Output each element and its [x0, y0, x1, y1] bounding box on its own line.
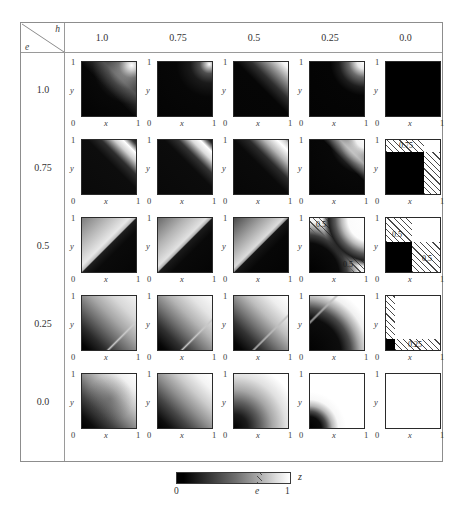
col-header-2: 0.5	[216, 23, 292, 53]
x-max-tick: 1	[440, 275, 444, 284]
plot-area	[385, 373, 441, 429]
panel-e0.0-h0.75: 1 y 0 x 1	[140, 365, 216, 443]
row-header-3: 0.25	[21, 318, 65, 329]
row-header-4: 0.0	[21, 396, 65, 407]
contour-line	[158, 296, 212, 350]
plot-area	[157, 373, 213, 429]
x-min-tick: 0	[299, 431, 303, 440]
colorbar-tick-min: 0	[174, 486, 179, 496]
black-region	[386, 152, 424, 194]
x-max-tick: 1	[440, 431, 444, 440]
y-max-tick: 1	[375, 136, 379, 145]
y-max-tick: 1	[223, 58, 227, 67]
plot-area	[81, 139, 137, 195]
y-axis-label: y	[146, 320, 150, 329]
y-max-tick: 1	[71, 136, 75, 145]
col-header-1: 0.75	[140, 23, 216, 53]
y-max-tick: 1	[223, 292, 227, 301]
contour-label-0.5-bottom: 0.5	[422, 255, 432, 263]
y-axis-label: y	[298, 242, 302, 251]
x-axis-label: x	[256, 431, 260, 440]
y-max-tick: 1	[71, 292, 75, 301]
x-min-tick: 0	[223, 119, 227, 128]
panel-e0.25-h1.0: 1 y 0 x 1	[64, 287, 140, 365]
plot-area	[157, 61, 213, 117]
x-min-tick: 0	[71, 119, 75, 128]
plot-area: 0.25	[385, 295, 441, 351]
colorbar-legend: z 0 e 1	[176, 472, 321, 486]
plot-area	[233, 61, 289, 117]
x-axis-label: x	[256, 197, 260, 206]
panel-e0.5-h0.75: 1 y 0 x 1	[140, 209, 216, 287]
y-axis-label: y	[374, 164, 378, 173]
col-header-3: 0.25	[292, 23, 368, 53]
panel-e0.5-h0.25: 0.5 0.5 1 y 0 x 1	[292, 209, 368, 287]
panel-e0.75-h0.75: 1 y 0 x 1	[140, 131, 216, 209]
y-axis-label: y	[146, 398, 150, 407]
x-axis-label: x	[104, 431, 108, 440]
corner-row-variable: e	[25, 42, 29, 52]
corner-header-cell: h e	[21, 23, 65, 53]
y-axis-label: y	[222, 398, 226, 407]
x-min-tick: 0	[375, 431, 379, 440]
y-max-tick: 1	[147, 136, 151, 145]
y-max-tick: 1	[375, 370, 379, 379]
y-axis-label: y	[222, 164, 226, 173]
contour-line	[310, 296, 364, 350]
y-axis-label: y	[298, 86, 302, 95]
col-header-4: 0.0	[368, 23, 443, 53]
x-min-tick: 0	[71, 197, 75, 206]
x-min-tick: 0	[147, 275, 151, 284]
x-min-tick: 0	[147, 197, 151, 206]
x-axis-label: x	[104, 119, 108, 128]
panel-e0.75-h0.5: 1 y 0 x 1	[216, 131, 292, 209]
x-min-tick: 0	[375, 119, 379, 128]
y-axis-label: y	[222, 86, 226, 95]
plot-area	[157, 217, 213, 273]
x-axis-label: x	[104, 275, 108, 284]
panel-e1.0-h0.5: 1 y 0 x 1	[216, 53, 292, 131]
y-max-tick: 1	[299, 136, 303, 145]
x-axis-label: x	[332, 353, 336, 362]
x-max-tick: 1	[440, 119, 444, 128]
row-header-2: 0.5	[21, 240, 65, 251]
y-max-tick: 1	[299, 58, 303, 67]
panel-e0.0-h0.0: 1 y 0 x 1	[368, 365, 443, 443]
x-min-tick: 0	[147, 119, 151, 128]
x-axis-label: x	[104, 197, 108, 206]
plot-area	[81, 217, 137, 273]
plot-area	[233, 139, 289, 195]
x-min-tick: 0	[71, 431, 75, 440]
y-axis-label: y	[298, 320, 302, 329]
panel-grid-table: h e 1.0 0.75 0.5 0.25 0.0 1.0 0.75 0.5 0…	[20, 22, 443, 462]
row-header-1: 0.75	[21, 162, 65, 173]
panel-e0.25-h0.5: 1 y 0 x 1	[216, 287, 292, 365]
panel-e1.0-h0.0: 1 y 0 x 1	[368, 53, 443, 131]
x-max-tick: 1	[440, 197, 444, 206]
plot-area	[233, 217, 289, 273]
panel-e0.5-h1.0: 1 y 0 x 1	[64, 209, 140, 287]
x-axis-label: x	[332, 119, 336, 128]
y-axis-label: y	[146, 164, 150, 173]
plot-area: 0.5 0.5	[385, 217, 441, 273]
y-axis-label: y	[146, 242, 150, 251]
y-max-tick: 1	[71, 214, 75, 223]
y-axis-label: y	[298, 164, 302, 173]
panel-e0.75-h1.0: 1 y 0 x 1	[64, 131, 140, 209]
plot-area	[309, 139, 365, 195]
x-axis-label: x	[256, 119, 260, 128]
plot-area	[309, 295, 365, 351]
panel-e1.0-h0.75: 1 y 0 x 1	[140, 53, 216, 131]
plot-area	[309, 373, 365, 429]
plot-area	[385, 61, 441, 117]
contour-label-0.5-top: 0.5	[392, 231, 402, 239]
x-axis-label: x	[180, 275, 184, 284]
x-axis-label: x	[408, 275, 412, 284]
contour-label-0.5-upper: 0.5	[316, 221, 326, 229]
y-max-tick: 1	[147, 370, 151, 379]
panel-e0.75-h0.25: 1 y 0 x 1	[292, 131, 368, 209]
x-min-tick: 0	[71, 353, 75, 362]
y-max-tick: 1	[375, 292, 379, 301]
x-min-tick: 0	[223, 275, 227, 284]
y-axis-label: y	[222, 242, 226, 251]
